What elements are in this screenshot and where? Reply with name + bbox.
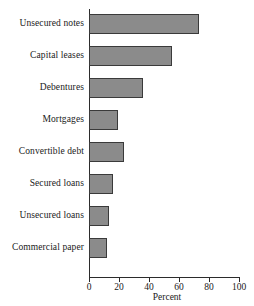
- bar-row: Debentures: [0, 78, 254, 98]
- plot-area: Unsecured notes Capital leases Debenture…: [0, 0, 254, 306]
- bar-category-label: Unsecured notes: [19, 19, 84, 29]
- bar-category-label: Debentures: [40, 83, 84, 93]
- bar-category-label: Commercial paper: [12, 243, 84, 253]
- x-axis-title: Percent: [0, 293, 254, 303]
- x-axis-line: [89, 277, 240, 278]
- bar-row: Unsecured notes: [0, 14, 254, 34]
- bar-category-label: Unsecured loans: [19, 211, 84, 221]
- bar-row: Capital leases: [0, 46, 254, 66]
- x-axis-tick-label: 80: [204, 283, 214, 293]
- bar-category-label: Capital leases: [30, 51, 84, 61]
- bar-row: Mortgages: [0, 110, 254, 130]
- bar-category-label: Mortgages: [42, 115, 84, 125]
- bar-row: Unsecured loans: [0, 206, 254, 226]
- bar: [89, 142, 124, 162]
- bar-row: Secured loans: [0, 174, 254, 194]
- bar: [89, 14, 199, 34]
- x-axis-tick-label: 100: [232, 283, 246, 293]
- bar: [89, 110, 118, 130]
- x-axis-tick-label: 20: [114, 283, 124, 293]
- x-axis-title-text: Percent: [153, 292, 182, 302]
- bar: [89, 206, 109, 226]
- bar: [89, 174, 113, 194]
- bar-chart: Unsecured notes Capital leases Debenture…: [0, 0, 254, 306]
- bar: [89, 238, 107, 258]
- bar: [89, 46, 172, 66]
- x-axis-tick-label: 0: [87, 283, 92, 293]
- bar-row: Commercial paper: [0, 238, 254, 258]
- bar: [89, 78, 143, 98]
- bar-row: Convertible debt: [0, 142, 254, 162]
- bar-category-label: Convertible debt: [19, 147, 84, 157]
- bar-category-label: Secured loans: [30, 179, 84, 189]
